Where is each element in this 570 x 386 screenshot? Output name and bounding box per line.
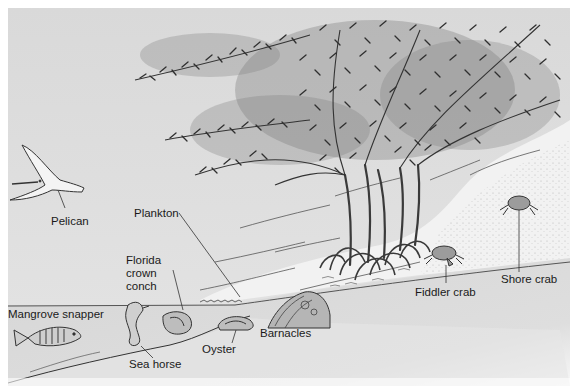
- label-florida-crown-conch: Florida crown conch: [126, 254, 161, 293]
- label-pelican: Pelican: [51, 215, 89, 228]
- florida-crown-conch-illustration: [163, 312, 192, 334]
- label-fiddler-crab: Fiddler crab: [415, 286, 476, 299]
- label-plankton: Plankton: [134, 207, 179, 220]
- label-oyster: Oyster: [202, 343, 236, 356]
- label-shore-crab: Shore crab: [501, 273, 557, 286]
- label-barnacles: Barnacles: [260, 327, 311, 340]
- label-sea-horse: Sea horse: [129, 358, 181, 371]
- mangrove-ecosystem-diagram: Pelican Plankton Florida crown conch Man…: [0, 0, 570, 386]
- label-mangrove-snapper: Mangrove snapper: [8, 308, 104, 321]
